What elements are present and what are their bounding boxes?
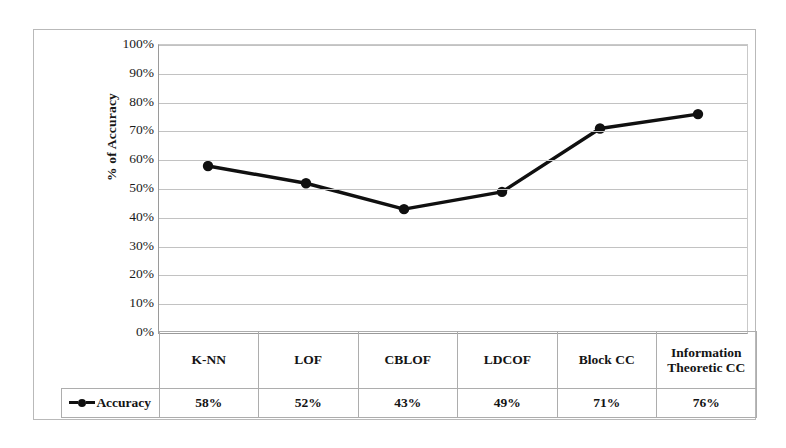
table-value-ldcof: 49% [458, 389, 558, 418]
table-header-block-cc: Block CC [557, 332, 657, 389]
gridline-40 [159, 218, 747, 219]
data-point-lof [301, 178, 311, 188]
table-value-cblof: 43% [358, 389, 458, 418]
y-axis-tick-60: 60% [94, 151, 154, 167]
table-header-ldcof: LDCOF [458, 332, 558, 389]
table-header-information-theoretic-cc: Information Theoretic CC [657, 332, 757, 389]
legend-accuracy: Accuracy [62, 389, 160, 418]
legend-label: Accuracy [96, 395, 151, 410]
gridline-20 [159, 275, 747, 276]
chart-figure-frame: % of Accuracy 100%90%80%70%60%50%40%30%2… [33, 29, 756, 420]
y-axis-tick-100: 100% [94, 36, 154, 52]
y-axis-tick-labels: 100%90%80%70%60%50%40%30%20%10%0% [94, 44, 154, 332]
data-point-k-nn [203, 161, 213, 171]
gridline-90 [159, 74, 747, 75]
gridline-50 [159, 189, 747, 190]
gridline-30 [159, 247, 747, 248]
table-value-information-theoretic-cc: 76% [657, 389, 757, 418]
table-value-lof: 52% [259, 389, 359, 418]
series-line-accuracy [208, 114, 698, 209]
plot-area [158, 44, 748, 334]
legend-line-icon [69, 401, 78, 404]
table-header-cblof: CBLOF [358, 332, 458, 389]
table-header-row: K-NNLOFCBLOFLDCOFBlock CCInformation The… [62, 332, 757, 389]
y-axis-tick-70: 70% [94, 122, 154, 138]
table-value-k-nn: 58% [159, 389, 259, 418]
legend-line-icon [86, 401, 95, 404]
y-axis-tick-50: 50% [94, 180, 154, 196]
gridline-60 [159, 160, 747, 161]
table-header-lof: LOF [259, 332, 359, 389]
legend-marker-icon [78, 399, 86, 407]
table-blank-cell [62, 332, 160, 389]
table-value-row: Accuracy 58%52%43%49%71%76% [62, 389, 757, 418]
gridline-100 [159, 45, 747, 46]
y-axis-tick-90: 90% [94, 65, 154, 81]
data-point-cblof [399, 204, 409, 214]
gridline-80 [159, 103, 747, 104]
table-header-k-nn: K-NN [159, 332, 259, 389]
y-axis-tick-20: 20% [94, 266, 154, 282]
y-axis-tick-80: 80% [94, 94, 154, 110]
y-axis-tick-10: 10% [94, 295, 154, 311]
gridline-10 [159, 304, 747, 305]
gridline-70 [159, 131, 747, 132]
y-axis-tick-40: 40% [94, 209, 154, 225]
y-axis-tick-30: 30% [94, 238, 154, 254]
data-point-information-theoretic-cc [693, 109, 703, 119]
table-value-block-cc: 71% [557, 389, 657, 418]
data-table: K-NNLOFCBLOFLDCOFBlock CCInformation The… [61, 331, 757, 418]
